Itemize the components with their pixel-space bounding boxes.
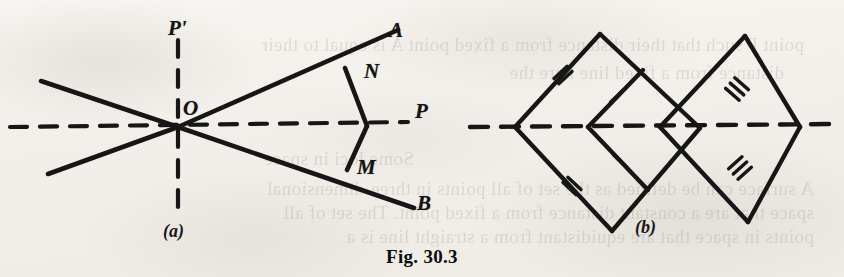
- ray-o-upper-left: [41, 81, 178, 127]
- tick-stroke: [611, 90, 624, 103]
- diagram-b-dashed-axis: [470, 124, 838, 127]
- label-p: P: [415, 101, 428, 122]
- left-rhombus-lower-left: [515, 127, 612, 231]
- label-a: A: [389, 20, 403, 41]
- figure-canvas: [0, 0, 844, 277]
- diagram-b-solid-lines: [515, 34, 800, 231]
- right-rhombus-lower-right: [745, 36, 800, 127]
- right-rhombus-upper-right: [748, 127, 800, 222]
- tick-single-inner-lower: [614, 155, 627, 168]
- diagram-a: [10, 30, 414, 211]
- diagram-b: [470, 34, 838, 231]
- tick-stroke: [614, 155, 627, 168]
- label-m: M: [357, 157, 376, 178]
- label-b: B: [417, 193, 431, 214]
- left-rhombus-upper-left: [515, 34, 600, 127]
- tick-single-inner-upper: [611, 90, 624, 103]
- label-p-prime: P': [168, 18, 187, 39]
- figure-page: point P such that their distance from a …: [0, 0, 844, 277]
- left-rhombus-lower-right: [600, 34, 700, 128]
- tick-triple-lower-right: [729, 157, 752, 179]
- tick-triple-upper-right: [726, 78, 749, 100]
- label-o-vertex: O: [183, 98, 198, 119]
- left-rhombus-upper-right: [612, 128, 700, 231]
- right-rhombus-upper-left: [660, 36, 745, 127]
- ray-o-lower-left: [48, 127, 178, 174]
- figure-caption: Fig. 30.3: [0, 246, 844, 268]
- axis-op: [10, 122, 408, 127]
- diagram-a-solid-lines: [41, 30, 414, 208]
- label-n: N: [364, 61, 379, 82]
- part-label-b: (b): [635, 218, 656, 236]
- ray-ob: [178, 127, 414, 208]
- part-label-a: (a): [163, 222, 184, 240]
- axis-dashed: [470, 124, 838, 127]
